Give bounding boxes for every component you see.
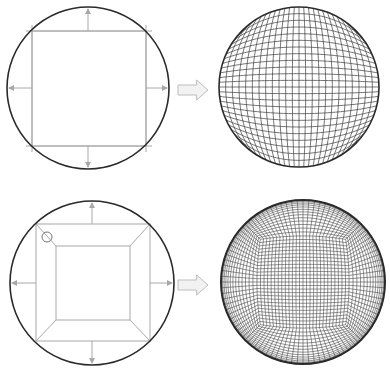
right-arrow-shape — [178, 80, 208, 100]
right-arrow-icon — [178, 275, 208, 295]
o-grid-disc-mesh — [221, 200, 385, 364]
disc-grid-mesh — [219, 7, 379, 167]
square-block — [32, 31, 146, 146]
figure-canvas — [0, 0, 390, 378]
right-arrow-shape — [178, 275, 208, 295]
diagonal-connector — [130, 320, 150, 341]
single-block-input-diagram — [7, 7, 169, 169]
diagonal-connector — [36, 320, 56, 341]
o-grid-input-diagram — [10, 201, 174, 365]
diagonal-connector — [130, 224, 150, 246]
right-arrow-icon — [178, 80, 208, 100]
corner-marker-circle — [42, 232, 52, 242]
inner-square — [56, 246, 130, 320]
diagonal-connector — [36, 224, 56, 246]
